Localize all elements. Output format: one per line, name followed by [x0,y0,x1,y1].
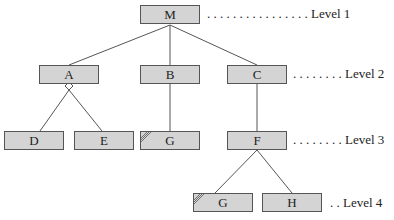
edge-f-g [215,150,257,193]
node-d: D [4,131,64,150]
node-label: M [164,7,176,22]
node-m: M [140,5,200,24]
edge-m-c [170,25,257,65]
hatch-mark-icon [141,132,151,142]
node-label: A [64,67,73,82]
edge-f-h [257,150,292,193]
hatch-mark-icon [194,194,204,204]
node-g-level3: G [140,131,200,150]
level-1-label: . . . . . . . . . . . . . . . . Level 1 [207,5,350,23]
node-label: G [218,195,227,210]
node-e: E [74,131,134,150]
level-2-label: . . . . . . . . Level 2 [293,65,384,83]
edge-m-a [69,25,170,65]
node-c: C [227,65,287,84]
node-g-level4: G [193,193,253,212]
edge-a-e [69,90,102,131]
node-a: A [39,65,99,84]
tree-edges [0,0,394,220]
node-f: F [227,131,287,150]
node-label: C [253,67,262,82]
node-label: B [166,67,175,82]
level-3-label: . . . . . . . . Level 3 [293,131,384,149]
level-4-label: . . Level 4 [330,194,382,212]
edge-a-d [40,90,69,131]
node-h: H [262,193,322,212]
node-label: F [253,133,260,148]
node-b: B [140,65,200,84]
node-label: D [29,133,38,148]
node-label: E [100,133,108,148]
node-label: G [165,133,174,148]
node-label: H [287,195,296,210]
